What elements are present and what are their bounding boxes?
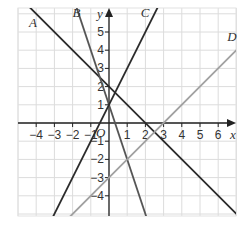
y-tick-label: −4 [90, 189, 104, 203]
line-a [0, 0, 247, 229]
x-tick-label: −2 [66, 128, 80, 142]
x-tick-label: 4 [178, 128, 185, 142]
line-labels: ABCD [28, 5, 237, 44]
x-axis-arrow-icon [227, 119, 236, 127]
x-tick-label: −3 [48, 128, 62, 142]
x-tick-label: 1 [124, 128, 131, 142]
line-b [0, 0, 247, 229]
y-axis-arrow-icon [105, 8, 113, 17]
line-label-a: A [28, 15, 37, 30]
x-tick-label: 6 [215, 128, 222, 142]
y-tick-label: −2 [90, 152, 104, 166]
y-tick-label: 5 [97, 25, 104, 39]
grid-lines [18, 8, 236, 216]
coordinate-plane-chart: −4−3−2−1123456−4−3−2−112345Oxy ABCD [0, 0, 247, 229]
line-label-b: B [73, 5, 81, 20]
x-tick-label: 5 [197, 128, 204, 142]
line-label-c: C [141, 5, 150, 20]
y-tick-label: −3 [90, 171, 104, 185]
y-tick-label: 4 [97, 43, 104, 57]
line-label-d: D [226, 29, 237, 44]
x-axis-label: x [229, 127, 236, 142]
y-tick-label: 1 [97, 98, 104, 112]
x-tick-label: −4 [29, 128, 43, 142]
plot-lines [0, 0, 247, 229]
y-axis-label: y [95, 6, 103, 21]
line-c [0, 0, 247, 229]
